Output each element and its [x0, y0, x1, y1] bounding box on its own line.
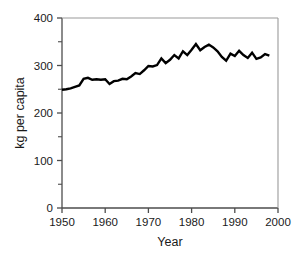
- y-tick-label: 300: [34, 60, 53, 72]
- x-tick-label: 1990: [222, 216, 248, 228]
- chart-figure: 0100200300400 195019601970198019902000 Y…: [0, 0, 300, 264]
- x-axis-ticks: [62, 208, 278, 213]
- y-tick-label: 100: [34, 155, 53, 167]
- x-tick-label: 1960: [92, 216, 118, 228]
- x-tick-label: 2000: [265, 216, 291, 228]
- data-series-line: [62, 44, 269, 90]
- x-tick-label: 1950: [49, 216, 75, 228]
- line-chart-plot: 0100200300400 195019601970198019902000 Y…: [0, 0, 300, 264]
- y-axis-tick-labels: 0100200300400: [34, 12, 53, 214]
- x-axis-tick-labels: 195019601970198019902000: [49, 216, 291, 228]
- y-tick-label: 400: [34, 12, 53, 24]
- y-axis-title: kg per capita: [13, 77, 27, 149]
- x-tick-label: 1970: [136, 216, 162, 228]
- y-axis-ticks: [57, 18, 62, 208]
- y-tick-label: 200: [34, 107, 53, 119]
- y-tick-label: 0: [47, 202, 53, 214]
- plot-frame: [62, 18, 278, 208]
- x-axis-title: Year: [157, 235, 182, 249]
- x-tick-label: 1980: [179, 216, 205, 228]
